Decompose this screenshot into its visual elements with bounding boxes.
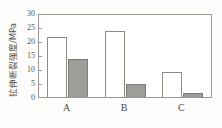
bar-c-series-2 <box>183 93 203 97</box>
bar-a-series-2 <box>68 59 88 97</box>
bar-a-series-1 <box>47 37 67 97</box>
y-tick-label-20: 20 <box>27 38 35 46</box>
y-tick-label-10: 10 <box>27 66 35 74</box>
y-tick-label-15: 15 <box>27 52 35 60</box>
y-axis-title-text: 拉伸断裂强度/MPa <box>6 23 18 97</box>
y-tick-mark-5 <box>39 84 42 85</box>
y-tick-label-30: 30 <box>27 10 35 18</box>
bar-b-series-1 <box>105 31 125 97</box>
y-tick-label-0: 0 <box>31 94 35 102</box>
y-tick-mark-15 <box>39 56 42 57</box>
plot-area <box>38 14 212 98</box>
bar-b-series-2 <box>126 84 146 97</box>
y-tick-label-25: 25 <box>27 24 35 32</box>
x-tick-label-a: A <box>47 102 87 114</box>
bar-chart-figure: 拉伸断裂强度/MPa 30 25 20 15 10 5 0 A B C <box>0 0 222 128</box>
bar-c-series-1 <box>162 72 182 97</box>
y-tick-mark-20 <box>39 42 42 43</box>
x-tick-label-b: B <box>104 102 144 114</box>
y-axis-tick-labels: 30 25 20 15 10 5 0 <box>18 10 35 106</box>
x-tick-label-c: C <box>161 102 201 114</box>
y-tick-mark-25 <box>39 28 42 29</box>
y-tick-mark-10 <box>39 70 42 71</box>
y-tick-label-5: 5 <box>31 80 35 88</box>
x-axis-tick-labels: A B C <box>38 100 212 116</box>
